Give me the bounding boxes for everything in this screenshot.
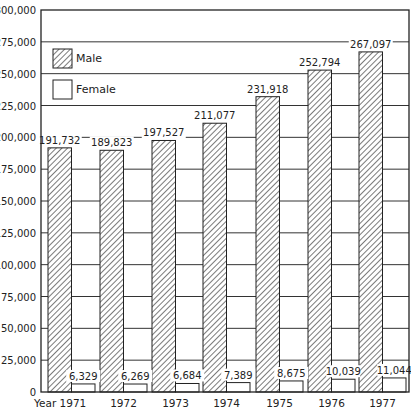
bars: [48, 52, 406, 392]
x-tick-label: 1976: [318, 397, 345, 409]
legend-swatch-female: [53, 80, 72, 99]
bar-female-1976: [332, 379, 356, 392]
value-label-female: 10,039: [326, 366, 361, 377]
y-tick-label: 175,000: [0, 164, 36, 175]
y-tick-label: 200,000: [0, 132, 36, 143]
legend-swatch-male: [53, 49, 72, 68]
value-label-female: 11,044: [377, 365, 411, 376]
value-label-female: 8,675: [277, 368, 306, 379]
bar-male-1976: [308, 70, 332, 392]
y-tick-label: 75,000: [1, 292, 36, 303]
bar-male-1973: [152, 140, 176, 392]
bar-female-1971: [72, 384, 96, 392]
value-label-female: 6,269: [121, 371, 150, 382]
bar-chart: 025,00050,00075,000100,000125,000150,000…: [0, 0, 411, 412]
value-label-male: 197,527: [143, 127, 184, 138]
x-tick-label: 1974: [213, 397, 240, 409]
value-label-male: 231,918: [247, 84, 288, 95]
bar-female-1973: [176, 383, 200, 392]
legend-label-female: Female: [76, 83, 116, 96]
bar-male-1975: [256, 97, 280, 392]
x-tick-label: Year 1971: [33, 397, 86, 409]
bar-female-1975: [280, 381, 304, 392]
x-tick-label: 1973: [162, 397, 189, 409]
value-label-male: 267,097: [350, 39, 391, 50]
y-tick-label: 150,000: [0, 196, 36, 207]
y-tick-label: 125,000: [0, 228, 36, 239]
y-axis: 025,00050,00075,000100,000125,000150,000…: [0, 5, 36, 398]
value-label-female: 6,684: [173, 370, 202, 381]
bar-male-1971: [48, 148, 72, 392]
x-tick-label: 1975: [266, 397, 293, 409]
value-label-male: 189,823: [91, 137, 132, 148]
value-label-male: 211,077: [194, 110, 235, 121]
bar-female-1974: [227, 383, 251, 392]
y-tick-label: 25,000: [1, 355, 36, 366]
bar-male-1974: [203, 123, 227, 392]
bar-female-1972: [124, 384, 148, 392]
y-tick-label: 275,000: [0, 37, 36, 48]
y-tick-label: 300,000: [0, 5, 36, 16]
value-label-female: 6,329: [69, 371, 98, 382]
y-tick-label: 225,000: [0, 101, 36, 112]
value-label-male: 252,794: [299, 57, 340, 68]
legend-label-male: Male: [76, 52, 102, 65]
value-label-male: 191,732: [39, 135, 80, 146]
y-tick-label: 250,000: [0, 69, 36, 80]
y-tick-label: 100,000: [0, 260, 36, 271]
bar-male-1977: [359, 52, 383, 392]
x-tick-label: 1977: [369, 397, 396, 409]
value-label-female: 7,389: [224, 370, 253, 381]
x-axis: Year 1971197219731974197519761977: [33, 397, 396, 409]
bar-male-1972: [100, 150, 124, 392]
y-tick-label: 50,000: [1, 323, 36, 334]
bar-female-1977: [383, 378, 407, 392]
x-tick-label: 1972: [110, 397, 137, 409]
